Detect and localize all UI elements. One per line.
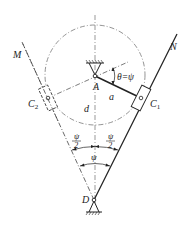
label-C2: C2 — [28, 98, 39, 111]
mechanism-diagram: M N A a d θ=ψ C1 C2 D ψ 2 ψ 2 ψ — [0, 0, 186, 226]
psi-half-arrow-mid-left — [91, 145, 95, 148]
label-d: d — [84, 103, 90, 114]
label-psi: ψ — [91, 152, 97, 162]
label-theta: θ=ψ — [117, 72, 135, 82]
psi-arrow-left — [80, 164, 85, 167]
label-A: A — [92, 81, 100, 92]
psi-arrow-right — [106, 164, 111, 167]
psi-half-arrow-mid-right — [95, 145, 99, 148]
label-N: N — [169, 41, 178, 52]
pivot-D — [92, 198, 96, 202]
label-a: a — [109, 91, 114, 102]
pin-C1 — [139, 96, 143, 100]
line-DN — [94, 34, 177, 200]
label-D: D — [81, 194, 90, 205]
psi-half-arrow-right — [114, 148, 119, 151]
pivot-A — [93, 74, 97, 78]
label-M: M — [12, 49, 22, 60]
line-DM-over — [22, 42, 58, 121]
label-C1: C1 — [150, 98, 161, 111]
crank-arm-AC2 — [48, 62, 128, 98]
